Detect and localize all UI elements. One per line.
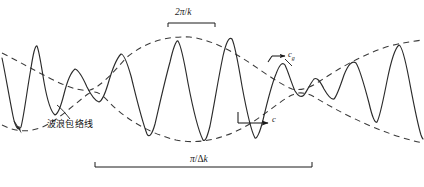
wavelength-bracket <box>168 23 215 27</box>
group-velocity-subscript: g <box>292 55 295 61</box>
wave-group-figure: 2π/k π/Δk 波浪包络线 c cg <box>0 0 424 187</box>
wavelength-label: 2π/k <box>175 8 191 18</box>
group-length-label: π/Δk <box>190 155 208 165</box>
lower-envelope-curve <box>2 92 423 143</box>
wavelength-numerator: 2π <box>175 7 185 17</box>
group-velocity-label: cg <box>288 50 295 61</box>
phase-velocity-label: c <box>272 115 276 124</box>
wavelength-denominator: k <box>187 7 191 17</box>
envelope-label-leader-line <box>57 105 70 119</box>
wave-group-diagram <box>0 0 424 187</box>
phase-velocity-symbol: c <box>272 114 276 124</box>
upper-envelope-curve <box>2 37 423 90</box>
envelope-chinese-label: 波浪包络线 <box>47 120 93 129</box>
group-length-denominator: k <box>204 154 208 164</box>
